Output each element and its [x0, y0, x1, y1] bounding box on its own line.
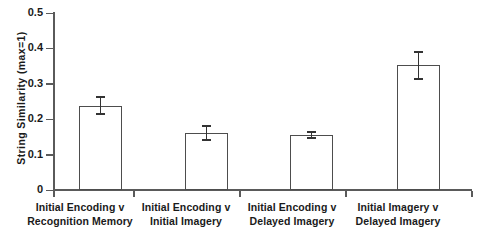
bar	[290, 135, 333, 190]
y-axis-line	[53, 12, 55, 191]
error-bar-cap-upper	[307, 131, 316, 133]
x-tick-mark	[53, 191, 55, 197]
y-tick-label: 0.3	[0, 78, 43, 89]
y-tick-label: 0.1	[0, 149, 43, 160]
y-tick-mark	[46, 83, 53, 85]
y-tick-label: 0.5	[0, 7, 43, 18]
x-tick-mark	[345, 191, 347, 197]
error-bar-stem	[100, 97, 102, 114]
category-label: Initial Encoding vRecognition Memory	[27, 200, 133, 228]
x-tick-mark	[133, 191, 135, 197]
category-label-line: Initial Encoding v	[133, 200, 239, 214]
category-label-line: Initial Imagery	[133, 214, 239, 228]
bar-chart: String Similarity (max=1) 00.10.20.30.40…	[0, 0, 485, 242]
bar	[79, 106, 122, 190]
y-tick-label: 0.2	[0, 113, 43, 124]
y-tick-mark	[46, 119, 53, 121]
category-label-line: Initial Encoding v	[239, 200, 345, 214]
category-label: Initial Encoding vDelayed Imagery	[239, 200, 345, 228]
error-bar-cap-lower	[414, 78, 423, 80]
y-tick-label: 0	[0, 184, 43, 195]
y-tick-mark	[46, 154, 53, 156]
category-label-line: Recognition Memory	[27, 214, 133, 228]
y-tick-mark	[46, 190, 53, 192]
category-label-line: Delayed Imagery	[239, 214, 345, 228]
bar	[397, 65, 440, 190]
category-label-line: Initial Imagery v	[345, 200, 451, 214]
category-label: Initial Imagery vDelayed Imagery	[345, 200, 451, 228]
error-bar-cap-lower	[307, 137, 316, 139]
category-label: Initial Encoding vInitial Imagery	[133, 200, 239, 228]
error-bar-cap-lower	[96, 113, 105, 115]
error-bar-cap-lower	[202, 139, 211, 141]
error-bar-cap-upper	[96, 96, 105, 98]
error-bar-stem	[418, 52, 420, 79]
x-tick-mark	[471, 191, 473, 197]
y-tick-mark	[46, 48, 53, 50]
error-bar-stem	[206, 126, 208, 140]
category-label-line: Initial Encoding v	[27, 200, 133, 214]
x-tick-mark	[239, 191, 241, 197]
y-tick-mark	[46, 13, 53, 15]
category-label-line: Delayed Imagery	[345, 214, 451, 228]
y-tick-label: 0.4	[0, 42, 43, 53]
error-bar-cap-upper	[202, 125, 211, 127]
bar	[185, 133, 228, 190]
error-bar-cap-upper	[414, 51, 423, 53]
